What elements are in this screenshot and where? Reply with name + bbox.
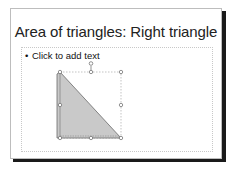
resize-handle-bottom-right[interactable]: [119, 136, 122, 139]
resize-handle-bottom-center[interactable]: [89, 136, 92, 139]
resize-handle-middle-left[interactable]: [58, 103, 61, 106]
placeholder-bullet-row[interactable]: •Click to add text: [25, 50, 100, 61]
resize-handle-top-left[interactable]: [58, 70, 61, 73]
resize-handle-top-center[interactable]: [89, 70, 92, 73]
slide-editor-canvas: Area of triangles: Right triangle •Click…: [0, 0, 235, 180]
resize-handle-top-right[interactable]: [119, 70, 122, 73]
placeholder-text[interactable]: Click to add text: [32, 50, 100, 61]
slide-title[interactable]: Area of triangles: Right triangle: [11, 23, 221, 40]
rotate-handle-icon[interactable]: [89, 62, 93, 66]
bullet-icon: •: [25, 50, 32, 61]
resize-handle-middle-right[interactable]: [119, 103, 122, 106]
resize-handle-bottom-left[interactable]: [58, 136, 61, 139]
